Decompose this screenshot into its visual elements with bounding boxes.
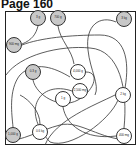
weight-node: 700 g [50, 10, 66, 26]
weight-node: 1 g [55, 91, 71, 107]
weight-node: 2,500 mg [72, 83, 88, 99]
node-label: 4,000 g [73, 70, 83, 73]
weight-node: 900 mg [6, 37, 22, 53]
node-label: 900 mg [9, 43, 19, 46]
node-label: 2 kg [120, 93, 126, 96]
node-label: 0.3 g [30, 70, 37, 73]
weight-node: 3 g [30, 10, 46, 26]
node-label: 400 mg [119, 134, 129, 137]
weight-node: 0.3 g [25, 64, 41, 80]
weight-node: 0.6 kg [32, 124, 48, 140]
node-label: 1,000 g [8, 133, 18, 136]
node-label: 700 g [54, 16, 62, 19]
node-label: 3 g [36, 16, 40, 19]
weight-node: 3 kg [116, 11, 132, 27]
node-label: 0.6 kg [36, 130, 44, 133]
weight-node: 1,000 g [5, 127, 21, 143]
node-label: 3 kg [121, 17, 127, 20]
weight-node: 400 mg [116, 128, 132, 144]
node-label: 1 g [61, 97, 65, 100]
weight-node: 2 kg [115, 87, 131, 103]
weight-node: 4,000 g [70, 64, 86, 80]
node-label: 2,500 mg [74, 89, 87, 92]
